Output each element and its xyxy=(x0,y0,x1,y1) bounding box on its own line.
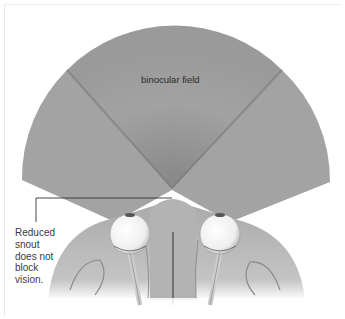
reduced-snout-callout: Reduced snout does not block vision. xyxy=(15,227,75,286)
left-eyeball xyxy=(110,214,150,254)
binocular-field-label: binocular field xyxy=(141,74,200,86)
callout-line-1: Reduced xyxy=(15,227,75,239)
head-illustration xyxy=(40,199,310,319)
visual-field xyxy=(22,25,330,222)
callout-line-4: block xyxy=(15,262,75,274)
callout-line-2: snout xyxy=(15,239,75,251)
callout-line-3: does not xyxy=(15,251,75,263)
right-eyeball xyxy=(200,214,240,254)
callout-line-5: vision. xyxy=(15,274,75,286)
